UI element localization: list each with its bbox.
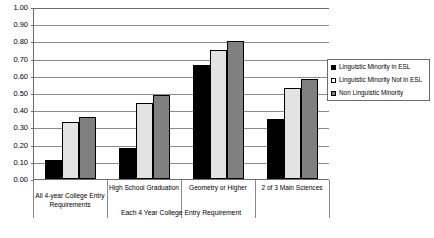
bar (301, 79, 318, 179)
y-axis-tick-label: 0.80 (13, 38, 28, 46)
bar (267, 119, 284, 179)
legend-label: Non Linguistic Minority (339, 89, 403, 97)
y-axis-tick-label: 0.10 (13, 159, 28, 167)
y-axis-tick-label: 0.40 (13, 107, 28, 115)
bar (227, 41, 244, 179)
y-axis-tick-label: 0.30 (13, 124, 28, 132)
bar (284, 88, 301, 179)
y-axis-tick-label: 0.70 (13, 56, 28, 64)
y-axis-tick-label: 1.00 (13, 4, 28, 12)
bar (153, 95, 170, 179)
y-axis-tick-label: 0.60 (13, 73, 28, 81)
legend-item: Non Linguistic Minority (331, 89, 427, 97)
category-separator (329, 180, 330, 218)
bar-group (182, 8, 256, 179)
y-axis-tick-label: 0.50 (13, 90, 28, 98)
bar-group (34, 8, 108, 179)
category-label: All 4-year College Entry Requirements (35, 192, 105, 209)
bar (79, 117, 96, 179)
bar-groups (34, 8, 329, 179)
legend-item: Linguistic Minority in ESL (331, 63, 427, 71)
legend-swatch-icon (331, 78, 336, 83)
bar-chart: 1.000.900.800.700.600.500.400.300.200.10… (0, 0, 434, 238)
legend-label: Linguistic Minority in ESL (339, 63, 410, 71)
category-label: Geometry or Higher (183, 184, 253, 193)
bar (45, 160, 62, 179)
bar-group (108, 8, 182, 179)
legend: Linguistic Minority in ESLLinguistic Min… (327, 59, 430, 101)
bar (119, 148, 136, 179)
x-axis-title: Each 4 Year College Entry Requirement (33, 208, 329, 217)
bar (193, 65, 210, 179)
bar (210, 50, 227, 179)
bar (62, 122, 79, 179)
bar (136, 103, 153, 179)
y-axis: 1.000.900.800.700.600.500.400.300.200.10… (0, 8, 32, 180)
category-label: High School Graduation (109, 184, 179, 193)
y-axis-tick-label: 0.00 (13, 176, 28, 184)
legend-label: Linguistic Minority Not in ESL (339, 76, 422, 84)
legend-swatch-icon (331, 91, 336, 96)
plot-area (33, 8, 329, 180)
y-axis-tick-label: 0.90 (13, 21, 28, 29)
legend-item: Linguistic Minority Not in ESL (331, 76, 427, 84)
bar-group (255, 8, 329, 179)
legend-swatch-icon (331, 65, 336, 70)
y-axis-tick-label: 0.20 (13, 142, 28, 150)
category-label: 2 of 3 Main Sciences (257, 184, 327, 193)
